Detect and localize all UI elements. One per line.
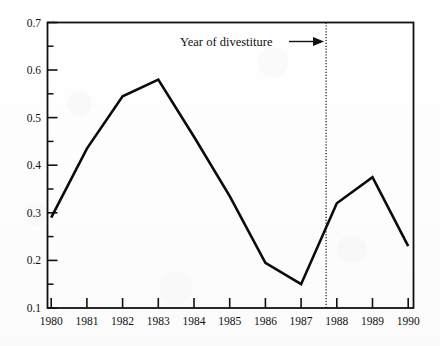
y-tick-label: 0.6 xyxy=(27,64,42,76)
y-axis-tick-labels: 0.1 0.2 0.3 0.4 0.5 0.6 0.7 xyxy=(27,17,42,315)
y-tick-label: 0.3 xyxy=(27,207,42,219)
x-tick-label: 1982 xyxy=(111,315,134,327)
y-tick-label: 0.5 xyxy=(27,112,42,124)
x-tick-label: 1989 xyxy=(361,315,384,327)
y-axis-major-ticks xyxy=(48,23,58,309)
data-series-line xyxy=(51,80,408,285)
x-tick-label: 1981 xyxy=(75,315,98,327)
annotation-label: Year of divestiture xyxy=(180,35,273,49)
y-tick-label: 0.1 xyxy=(27,302,42,314)
chart-page: 0.1 0.2 0.3 0.4 0.5 0.6 0.7 1980 1981 xyxy=(0,0,440,346)
x-tick-label: 1988 xyxy=(325,315,348,327)
y-tick-label: 0.7 xyxy=(27,17,42,29)
y-tick-label: 0.4 xyxy=(27,159,42,171)
annotation-arrow-head xyxy=(313,37,324,46)
x-tick-label: 1983 xyxy=(147,315,170,327)
y-tick-label: 0.2 xyxy=(27,254,42,266)
x-axis-tick-labels: 1980 1981 1982 1983 1984 1985 1986 1987 … xyxy=(40,315,420,327)
x-tick-label: 1980 xyxy=(40,315,63,327)
x-tick-label: 1990 xyxy=(397,315,420,327)
x-tick-label: 1986 xyxy=(254,315,277,327)
x-tick-label: 1984 xyxy=(183,315,206,327)
x-axis-ticks xyxy=(51,298,408,308)
x-tick-label: 1985 xyxy=(218,315,241,327)
plot-frame xyxy=(48,23,414,309)
line-chart: 0.1 0.2 0.3 0.4 0.5 0.6 0.7 1980 1981 xyxy=(0,0,440,346)
x-tick-label: 1987 xyxy=(290,315,313,327)
